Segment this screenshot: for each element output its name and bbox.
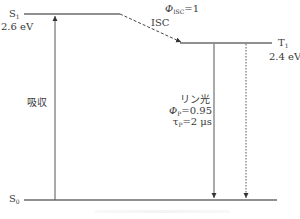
t1-subscript: 1	[285, 42, 289, 49]
isc-subscript: ISC	[173, 8, 184, 15]
s1-symbol: S	[9, 8, 16, 19]
phi-symbol: Φ	[165, 3, 173, 14]
phosphorescence-lifetime: τP=2 μs	[173, 116, 212, 130]
s1-subscript: 1	[16, 13, 20, 20]
s0-symbol: S	[9, 193, 16, 204]
t1-energy-label: 2.4 eV	[269, 51, 300, 62]
s0-subscript: 0	[16, 198, 20, 205]
s1-energy-label: 2.6 eV	[1, 21, 33, 32]
isc-quantum-yield: ΦISC=1	[165, 3, 199, 17]
s1-label: S1	[9, 8, 20, 22]
isc-label: ISC	[151, 17, 169, 28]
phi-p-value: =0.95	[181, 105, 212, 116]
t1-label: T1	[278, 37, 289, 51]
absorption-label: 吸収	[27, 97, 47, 108]
energy-diagram	[0, 0, 300, 219]
phosphorescence-label: リン光	[180, 94, 210, 105]
faded-caption	[95, 210, 230, 213]
tau-p-value: =2 μs	[182, 116, 212, 127]
s0-label: S0	[9, 193, 20, 207]
t1-symbol: T	[278, 37, 285, 48]
isc-yield-value: =1	[184, 3, 199, 14]
